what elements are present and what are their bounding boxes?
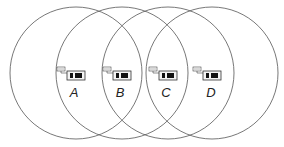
node-label-d: D <box>201 85 221 100</box>
node-label-a: A <box>64 85 84 100</box>
device-icon-c <box>149 67 177 80</box>
node-label-b: B <box>110 85 130 100</box>
device-icon-d <box>193 67 221 80</box>
coverage-diagram <box>0 0 284 147</box>
device-icon-b <box>103 67 131 80</box>
device-icon-a <box>57 67 85 80</box>
node-label-c: C <box>156 85 176 100</box>
